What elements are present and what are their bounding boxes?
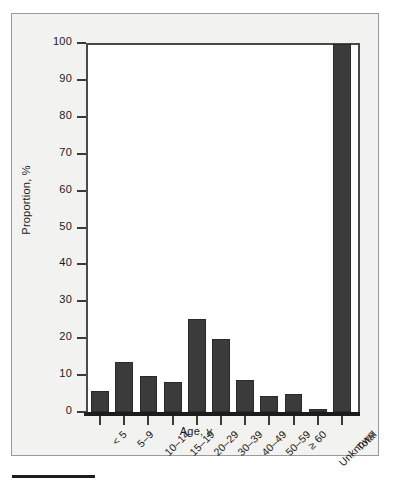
figure-panel: Proportion, % 0102030405060708090100 < 5… [11, 13, 379, 456]
x-tick-mark [220, 416, 222, 425]
y-tick-label: 70 [59, 146, 72, 158]
y-tick-label: 50 [59, 220, 72, 232]
caption-rule [12, 475, 95, 478]
y-tick-mark [77, 411, 86, 413]
bar [212, 339, 230, 412]
y-tick-mark [77, 337, 86, 339]
y-tick-mark [77, 79, 86, 81]
bar [188, 319, 206, 412]
y-tick-label: 30 [59, 293, 72, 305]
x-tick-mark [147, 416, 149, 425]
x-tick-mark [123, 416, 125, 425]
y-tick-label: 40 [59, 256, 72, 268]
bar [236, 380, 254, 412]
y-axis-title: Proportion, % [20, 125, 32, 275]
bar [309, 409, 327, 412]
x-axis-title: Age, y [12, 425, 380, 437]
x-tick-mark [244, 416, 246, 425]
y-tick-label: 0 [66, 404, 72, 416]
y-tick-label: 100 [53, 35, 72, 47]
y-tick-label: 60 [59, 183, 72, 195]
y-tick-mark [77, 263, 86, 265]
bar [260, 396, 278, 412]
bar [164, 382, 182, 412]
bar [333, 44, 351, 412]
y-tick-mark [77, 153, 86, 155]
y-tick-mark [77, 227, 86, 229]
y-tick-label: 90 [59, 72, 72, 84]
y-tick-label: 80 [59, 109, 72, 121]
bar [115, 362, 133, 412]
y-tick-mark [77, 300, 86, 302]
y-tick-mark [77, 116, 86, 118]
x-tick-mark [341, 416, 343, 425]
y-tick-mark [77, 374, 86, 376]
x-tick-mark [268, 416, 270, 425]
x-tick-mark [172, 416, 174, 425]
bar [91, 391, 109, 412]
bar [140, 376, 158, 412]
x-tick-mark [99, 416, 101, 425]
bar [285, 394, 303, 412]
y-tick-mark [77, 190, 86, 192]
y-tick-label: 10 [59, 367, 72, 379]
x-tick-mark [293, 416, 295, 425]
y-tick-label: 20 [59, 330, 72, 342]
bars-layer [88, 43, 354, 412]
x-tick-mark [317, 416, 319, 425]
x-tick-mark [196, 416, 198, 425]
y-tick-mark [77, 42, 86, 44]
